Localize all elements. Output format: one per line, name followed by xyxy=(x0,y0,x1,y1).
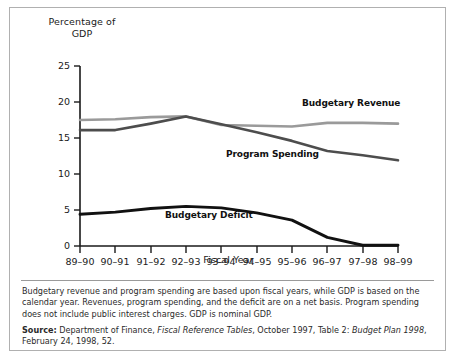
source-part2: , October 1997, Table 2: xyxy=(252,325,352,335)
line-chart-svg xyxy=(10,8,447,274)
figure-notes: Budgetary revenue and program spending a… xyxy=(22,286,436,320)
source-italic-fiscal-reference-tables: Fiscal Reference Tables xyxy=(157,325,252,335)
y-axis-ticks xyxy=(74,66,80,246)
y-tick-label-20: 20 xyxy=(48,96,70,107)
x-axis-title: Fiscal Year xyxy=(10,254,447,265)
series-label-budgetary-deficit: Budgetary Deficit xyxy=(165,210,253,220)
chart-region: Percentage of GDP xyxy=(10,8,447,274)
source-italic-budget-plan-1998: Budget Plan 1998 xyxy=(352,325,424,335)
x-axis-ticks xyxy=(80,246,398,253)
y-tick-label-10: 10 xyxy=(48,168,70,179)
y-tick-label-5: 5 xyxy=(48,204,70,215)
notes-divider xyxy=(21,280,434,281)
y-tick-label-0: 0 xyxy=(48,240,70,251)
figure-source: Source: Department of Finance, Fiscal Re… xyxy=(22,325,436,348)
series-label-budgetary-revenue: Budgetary Revenue xyxy=(302,98,400,108)
y-tick-label-15: 15 xyxy=(48,132,70,143)
source-part1: Department of Finance, xyxy=(57,325,158,335)
series-line-budgetary-revenue xyxy=(80,116,398,126)
figure-frame: Percentage of GDP xyxy=(9,7,446,351)
y-tick-label-25: 25 xyxy=(48,60,70,71)
series-label-program-spending: Program Spending xyxy=(226,149,319,159)
source-lead-label: Source: xyxy=(22,325,57,335)
